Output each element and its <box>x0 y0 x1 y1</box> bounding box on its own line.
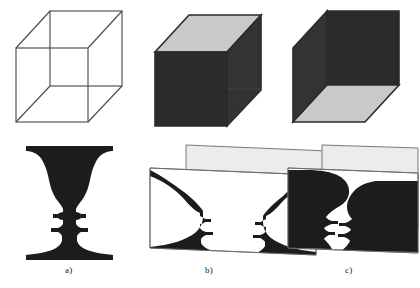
caption-panel-a: a) <box>65 265 72 275</box>
vase-silhouette <box>26 146 113 260</box>
shaded-cube-top-lit-svg <box>140 0 280 140</box>
cube-edge-br <box>88 86 122 122</box>
cube-edge-tr <box>88 11 122 48</box>
rubin-vase-silhouette-svg <box>0 138 140 263</box>
panel-c-top-shaded-cube <box>280 0 420 140</box>
caption-panel-b: b) <box>205 265 213 275</box>
panel-c-bottom-faces-planes <box>280 138 420 263</box>
illusion-figure: a) b) c) <box>0 0 420 288</box>
panel-b-top-shaded-cube <box>140 0 280 140</box>
cube-edge-tl <box>16 11 50 48</box>
panel-a-bottom-rubin-vase <box>0 138 140 263</box>
faces-on-planes-svg <box>280 138 420 263</box>
cube-front-face <box>155 52 227 126</box>
cube-back-face <box>327 11 399 85</box>
shaded-cube-bottom-lit-svg <box>280 0 420 140</box>
cube-edge-bl <box>16 86 50 122</box>
caption-panel-c: c) <box>345 265 352 275</box>
panel-a-top-necker-cube <box>0 0 140 140</box>
necker-cube-wireframe-svg <box>0 0 140 140</box>
